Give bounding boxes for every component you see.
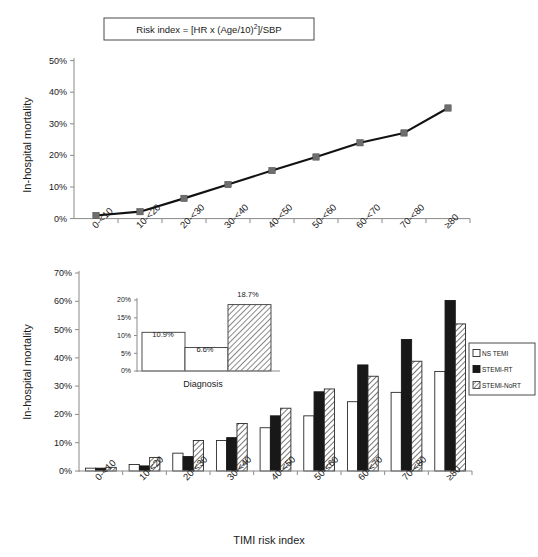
top-cat-2: 20-<30 [178,202,207,231]
bottom-y-tick-labels: 0% 10% 20% 30% 40% 50% 60% 70% [54,268,72,476]
data-point-marker [357,140,363,146]
formula-title-box: Risk index = [HR x (Age/10)2]/SBP [104,18,314,40]
bottom-y-ticks [75,273,79,471]
mortality-line [96,108,448,215]
bot-y-tick-3: 30% [54,381,72,391]
bot-y-tick-4: 40% [54,353,72,363]
figure-panel: Risk index = [HR x (Age/10)2]/SBP In-hos… [0,0,538,557]
inset-y-tick-2: 10% [117,332,131,339]
bar-ns-temi [435,371,445,471]
inset-label-1: 6.6% [196,345,213,354]
top-cat-3: 30-<40 [222,202,251,231]
top-x-category-labels: 0-<10 10-<20 20-<30 30-<40 40-<50 50-<60… [90,202,461,231]
top-cat-7: 70-<80 [398,202,427,231]
inset-y-tick-3: 15% [117,314,131,321]
formula-prefix: Risk index = [HR x (Age/10) [136,24,253,35]
bar-stemi-rt [270,416,280,471]
legend-label-stemi-nort: STEMI-NoRT [482,382,521,389]
top-y-ticks [70,61,74,219]
bar-stemi-nort [455,324,465,471]
bot-y-tick-1: 10% [54,438,72,448]
formula-suffix: ]/SBP [257,24,281,35]
inset-y-tick-1: 5% [121,350,131,357]
legend: NS TEMI STEMI-RT STEMI-NoRT [469,343,535,395]
top-y-tick-0: 0% [54,214,67,224]
mortality-markers [93,105,451,219]
top-line-chart: Risk index = [HR x (Age/10)2]/SBP In-hos… [21,18,470,230]
bar-stemi-rt [358,365,368,471]
bar-groups [85,300,465,471]
data-point-marker [137,208,143,214]
bar-stemi-rt [314,392,324,471]
bot-y-tick-5: 50% [54,325,72,335]
legend-swatch-nstemi [473,350,480,357]
inset-y-tick-labels: 0% 5% 10% 15% 20% [117,296,131,374]
bar-ns-temi [260,428,270,471]
data-point-marker [269,167,275,173]
top-y-tick-1: 10% [49,182,67,192]
bottom-x-axis-title: TIMI risk index [233,534,305,546]
top-y-tick-2: 20% [49,150,67,160]
inset-bar-chart: 0% 5% 10% 15% 20% 10.9% 6.6% 18.7% Diagn… [117,290,280,389]
bot-y-tick-0: 0% [59,466,72,476]
bottom-x-ticks [123,471,472,475]
bar-ns-temi [129,464,139,471]
legend-label-nstemi: NS TEMI [482,350,508,357]
data-point-marker [93,212,99,218]
bar-stemi-rt [445,300,455,471]
top-y-tick-4: 40% [49,87,67,97]
legend-swatch-stemi-nort [473,382,480,389]
svg-text:Risk index = [HR x (Age/10)2]/: Risk index = [HR x (Age/10)2]/SBP [136,23,281,35]
inset-bar-2 [228,305,271,371]
data-point-marker [401,130,407,136]
top-x-ticks [118,219,470,223]
top-y-axis-title: In-hospital mortality [21,97,33,193]
data-point-marker [445,105,451,111]
inset-y-tick-4: 20% [117,296,131,303]
bottom-y-axis-title: In-hospital mortality [21,324,33,420]
inset-x-axis-title: Diagnosis [183,379,223,389]
top-cat-6: 60-<70 [354,202,383,231]
legend-swatch-stemi-rt [473,366,480,373]
bottom-bar-chart: In-hospital mortality 0% 10% 20% 30% 40%… [21,268,535,546]
inset-label-0: 10.9% [152,330,174,339]
bot-y-tick-2: 20% [54,409,72,419]
bar-ns-temi [216,440,226,471]
bot-y-tick-7: 70% [54,268,72,278]
top-cat-8: ≥80 [442,211,461,230]
bar-ns-temi [304,416,314,471]
inset-y-tick-0: 0% [121,367,131,374]
inset-label-2: 18.7% [237,290,259,299]
bar-ns-temi [173,453,183,471]
bot-y-tick-6: 60% [54,296,72,306]
bar-ns-temi [347,402,357,471]
data-point-marker [313,154,319,160]
top-cat-5: 50-<60 [310,202,339,231]
legend-label-stemi-rt: STEMI-RT [482,366,513,373]
top-y-tick-5: 50% [49,56,67,66]
data-point-marker [225,181,231,187]
data-point-marker [181,195,187,201]
bar-stemi-rt [401,339,411,471]
bar-ns-temi [391,392,401,471]
top-y-tick-3: 30% [49,119,67,129]
top-y-tick-labels: 0% 10% 20% 30% 40% 50% [49,56,67,224]
top-cat-4: 40-<50 [266,202,295,231]
